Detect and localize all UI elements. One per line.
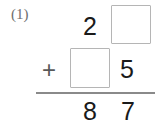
sum-rule-divider (36, 92, 155, 94)
problem-number-label: (1) (11, 5, 29, 23)
plus-operator-icon: + (38, 58, 60, 82)
worksheet-problem-panel: (1) 2 + 5 8 7 (0, 0, 163, 128)
sum-tens-digit: 8 (77, 99, 103, 124)
sum-ones-digit: 7 (115, 99, 141, 124)
addend1-ones-answer-box[interactable] (111, 5, 151, 44)
addend1-tens-digit: 2 (77, 14, 103, 39)
addend2-tens-answer-box[interactable] (70, 48, 110, 88)
addend2-ones-digit: 5 (114, 57, 140, 82)
